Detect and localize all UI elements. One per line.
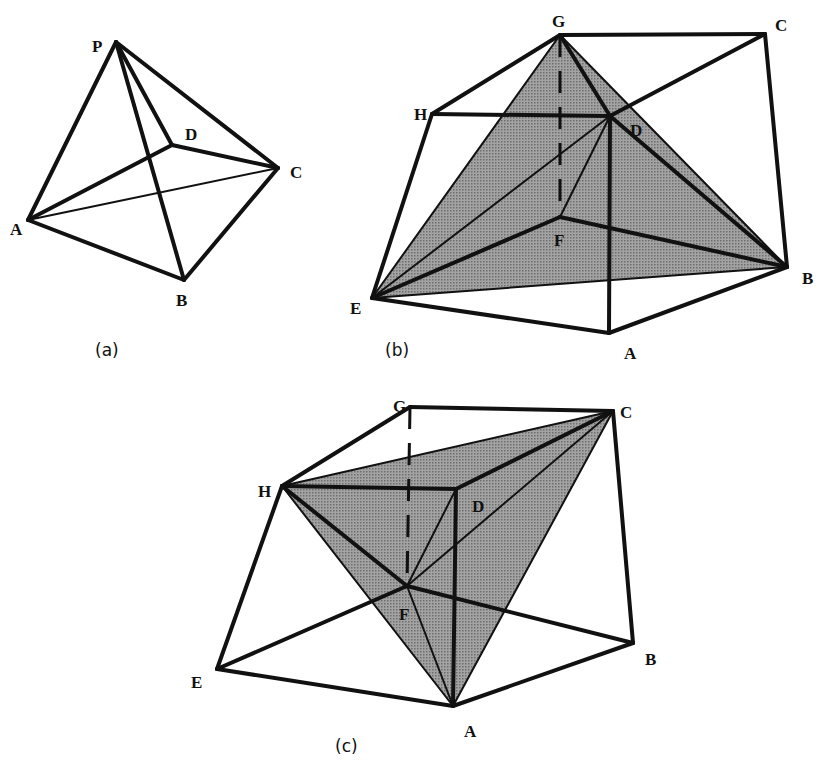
figure-a-pyramid: PDCAB(a) [10,37,302,360]
figure-caption-c: (c) [335,736,358,756]
vertex-label-f: F [554,231,564,250]
vertex-label-d: D [472,497,484,516]
figure-caption-b: (b) [385,340,409,360]
edge-ea [372,298,609,333]
edge-pd [116,42,172,145]
vertex-label-g: G [552,12,565,31]
vertex-label-b: B [176,291,187,310]
edge-ab [28,220,184,280]
edge-pb [116,42,184,280]
edge-ad [28,145,172,220]
edge-dc [610,34,765,116]
vertex-label-c: C [290,163,302,182]
edge-ea [217,669,453,706]
edge-gc [560,34,765,35]
vertex-label-b: B [645,650,656,669]
vertex-label-h: H [258,482,271,501]
vertex-label-a: A [624,344,637,363]
vertex-label-c: C [775,16,787,35]
edge-hd [432,114,610,116]
vertex-label-e: E [191,673,202,692]
edge-da [609,116,610,333]
figure-caption-a: (a) [95,340,119,360]
geometry-figure: PDCAB(a) GCHDFEBA(b) GCHDFEBA(c) [0,0,824,774]
vertex-label-e: E [350,299,361,318]
shaded-face-geb [372,35,787,298]
vertex-label-p: P [92,37,102,56]
figure-c-cube-tetrahedron: GCHDFEBA(c) [191,397,656,756]
edge-cb [613,411,633,643]
vertex-label-d: D [630,121,642,140]
edge-cb [765,34,787,267]
vertex-label-a: A [10,220,23,239]
vertex-label-d: D [185,125,197,144]
edge-he [217,486,282,669]
edge-pa [28,42,116,220]
vertex-label-b: B [802,269,813,288]
edge-gc [410,407,613,411]
vertex-label-g: G [393,397,406,416]
figure-b-cube-tetrahedron: GCHDFEBA(b) [350,12,813,363]
vertex-label-h: H [414,105,427,124]
vertex-label-f: F [399,605,409,624]
vertex-label-a: A [464,722,477,741]
vertex-label-c: C [620,403,632,422]
edge-ef [217,586,407,669]
